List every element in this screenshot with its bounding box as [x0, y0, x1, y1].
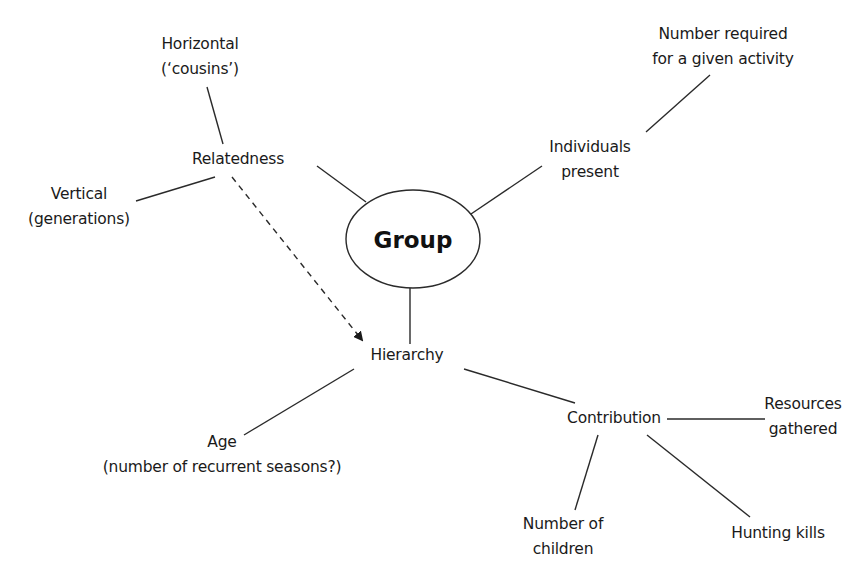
node-hunting-line1: Hunting kills [731, 521, 825, 546]
node-horizontal: Horizontal (‘cousins’) [161, 32, 239, 82]
node-age-line1: Age [103, 430, 342, 455]
edge-contribution-children [575, 435, 598, 510]
node-vertical-line2: (generations) [28, 207, 130, 232]
edge-relatedness-group [317, 166, 366, 202]
node-resources-line1: Resources [764, 392, 841, 417]
node-age: Age (number of recurrent seasons?) [103, 430, 342, 480]
node-hierarchy-line1: Hierarchy [370, 343, 443, 368]
node-resources-gathered: Resources gathered [764, 392, 841, 442]
node-relatedness-line1: Relatedness [192, 147, 284, 172]
edge-contribution-hunting [647, 435, 750, 517]
node-children-line1: Number of [523, 512, 603, 537]
edge-hierarchy-contribution [464, 369, 575, 403]
node-vertical-line1: Vertical [28, 182, 130, 207]
edge-relatedness-hierarchy-dashed-arrow [232, 177, 362, 340]
node-group: Group [374, 227, 453, 253]
node-individuals-present: Individuals present [549, 135, 630, 185]
node-horizontal-line1: Horizontal [161, 32, 239, 57]
node-hunting-kills: Hunting kills [731, 521, 825, 546]
node-number-required-line2: for a given activity [652, 47, 793, 72]
node-age-line2: (number of recurrent seasons?) [103, 455, 342, 480]
node-contribution: Contribution [567, 406, 661, 431]
node-contribution-line1: Contribution [567, 406, 661, 431]
edge-hierarchy-age [244, 369, 354, 435]
edge-group-individuals [471, 166, 542, 214]
concept-map-canvas [0, 0, 861, 585]
node-individuals-line2: present [549, 160, 630, 185]
node-individuals-line1: Individuals [549, 135, 630, 160]
edge-relatedness-vertical [136, 177, 215, 201]
node-relatedness: Relatedness [192, 147, 284, 172]
node-number-required: Number required for a given activity [652, 22, 793, 72]
node-resources-line2: gathered [764, 417, 841, 442]
node-horizontal-line2: (‘cousins’) [161, 57, 239, 82]
node-children-line2: children [523, 537, 603, 562]
edge-individuals-number-required [646, 75, 710, 132]
node-number-required-line1: Number required [652, 22, 793, 47]
node-vertical: Vertical (generations) [28, 182, 130, 232]
node-hierarchy: Hierarchy [370, 343, 443, 368]
node-number-of-children: Number of children [523, 512, 603, 562]
edge-horizontal-relatedness [207, 87, 223, 144]
